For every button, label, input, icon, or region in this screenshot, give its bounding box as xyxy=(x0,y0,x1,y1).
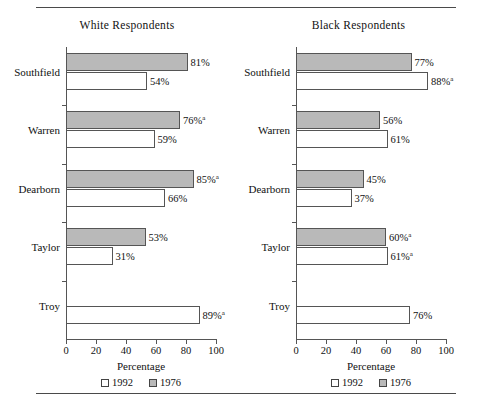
bar-value-label: 88%a xyxy=(431,75,453,88)
x-axis-title-white: Percentage xyxy=(66,360,216,372)
category-label: Troy xyxy=(39,300,60,312)
legend-item-1976: 1976 xyxy=(379,377,411,388)
bar-1976: 56% xyxy=(296,111,380,129)
bar-group: Taylor60%a61%a xyxy=(296,228,446,266)
bar-value-label: 56% xyxy=(383,115,402,126)
panel-title-black: Black Respondents xyxy=(234,19,479,31)
x-axis-title-black: Percentage xyxy=(296,360,446,372)
bar-group: Warren56%61% xyxy=(296,111,446,149)
legend-item-1992: 1992 xyxy=(101,377,133,388)
legend-swatch-1992-icon xyxy=(331,379,339,387)
bar-value-label: 89%a xyxy=(203,308,225,321)
x-tick-label: 40 xyxy=(111,345,141,356)
footnote-marker: a xyxy=(410,250,413,258)
legend-white: 1992 1976 xyxy=(66,377,216,388)
bar-1992: 89%a xyxy=(66,306,200,324)
bar-1992: 88%a xyxy=(296,72,428,90)
legend-label-1976: 1976 xyxy=(390,377,411,388)
chart-panel-white: White Respondents Percentage 1992 1976 0… xyxy=(0,0,240,405)
legend-swatch-1976-icon xyxy=(149,379,157,387)
x-tick xyxy=(296,339,297,344)
x-tick-label: 80 xyxy=(401,345,431,356)
footnote-marker: a xyxy=(222,308,225,316)
x-tick xyxy=(446,339,447,344)
bar-1992: 31% xyxy=(66,247,113,265)
footnote-marker: a xyxy=(408,231,411,239)
category-label: Warren xyxy=(258,124,290,136)
bar-value-label: 66% xyxy=(168,192,187,203)
category-label: Taylor xyxy=(261,241,290,253)
bar-1992: 76% xyxy=(296,306,410,324)
bar-value-label: 54% xyxy=(150,76,169,87)
bar-1976: 77% xyxy=(296,53,412,71)
x-tick xyxy=(186,339,187,344)
x-tick xyxy=(326,339,327,344)
bar-value-label: 37% xyxy=(355,192,374,203)
figure: White Respondents Percentage 1992 1976 0… xyxy=(0,0,479,405)
bar-value-label: 31% xyxy=(116,251,135,262)
chart-panel-black: Black Respondents Percentage 1992 1976 0… xyxy=(230,0,479,405)
y-axis-group-tick xyxy=(62,164,66,165)
bar-group: Dearborn85%a66% xyxy=(66,170,216,208)
x-tick xyxy=(216,339,217,344)
bar-1976: 76%a xyxy=(66,111,180,129)
bar-1992: 37% xyxy=(296,189,352,207)
x-tick-label: 0 xyxy=(281,345,311,356)
legend-item-1976: 1976 xyxy=(149,377,181,388)
legend-label-1992: 1992 xyxy=(112,377,133,388)
bar-1976: 45% xyxy=(296,170,364,188)
plot-area-black: Percentage 1992 1976 020406080100Southfi… xyxy=(296,47,446,339)
category-label: Dearborn xyxy=(248,183,290,195)
bar-value-label: 45% xyxy=(367,173,386,184)
legend-label-1992: 1992 xyxy=(342,377,363,388)
x-tick xyxy=(126,339,127,344)
category-label: Warren xyxy=(28,124,60,136)
y-axis-group-tick xyxy=(62,281,66,282)
x-axis-black xyxy=(296,339,446,340)
bar-1992: 66% xyxy=(66,189,165,207)
bar-group: Southfield81%54% xyxy=(66,53,216,91)
bar-value-label: 76% xyxy=(413,309,432,320)
bar-value-label: 53% xyxy=(149,232,168,243)
category-label: Southfield xyxy=(244,66,290,78)
bar-1992: 61%a xyxy=(296,247,388,265)
legend-item-1992: 1992 xyxy=(331,377,363,388)
x-tick-label: 60 xyxy=(141,345,171,356)
bar-value-label: 61%a xyxy=(391,250,413,263)
footnote-marker: a xyxy=(202,114,205,122)
x-tick xyxy=(386,339,387,344)
bar-1976: 81% xyxy=(66,53,188,71)
y-axis-group-tick xyxy=(62,105,66,106)
y-axis-group-tick xyxy=(292,222,296,223)
category-label: Taylor xyxy=(31,241,60,253)
x-tick-label: 60 xyxy=(371,345,401,356)
footnote-marker: a xyxy=(450,75,453,83)
legend-swatch-1976-icon xyxy=(379,379,387,387)
legend-black: 1992 1976 xyxy=(296,377,446,388)
bar-value-label: 85%a xyxy=(197,173,219,186)
y-axis-group-tick xyxy=(292,105,296,106)
x-tick xyxy=(356,339,357,344)
x-tick-label: 20 xyxy=(311,345,341,356)
bar-1976: 85%a xyxy=(66,170,194,188)
footnote-marker: a xyxy=(216,173,219,181)
panel-title-white: White Respondents xyxy=(7,19,247,31)
bar-1992: 54% xyxy=(66,72,147,90)
bar-group: Troy89%a xyxy=(66,287,216,325)
bar-group: Taylor53%31% xyxy=(66,228,216,266)
bar-1976: 53% xyxy=(66,228,146,246)
bar-1992: 61% xyxy=(296,130,388,148)
x-axis-white xyxy=(66,339,216,340)
bar-group: Dearborn45%37% xyxy=(296,170,446,208)
bar-value-label: 59% xyxy=(158,134,177,145)
bar-1992: 59% xyxy=(66,130,155,148)
category-label: Dearborn xyxy=(18,183,60,195)
legend-swatch-1992-icon xyxy=(101,379,109,387)
bar-group: Warren76%a59% xyxy=(66,111,216,149)
x-tick xyxy=(96,339,97,344)
bar-value-label: 77% xyxy=(415,57,434,68)
bar-value-label: 60%a xyxy=(389,231,411,244)
plot-area-white: Percentage 1992 1976 020406080100Southfi… xyxy=(66,47,216,339)
bar-group: Southfield77%88%a xyxy=(296,53,446,91)
bar-value-label: 76%a xyxy=(183,114,205,127)
